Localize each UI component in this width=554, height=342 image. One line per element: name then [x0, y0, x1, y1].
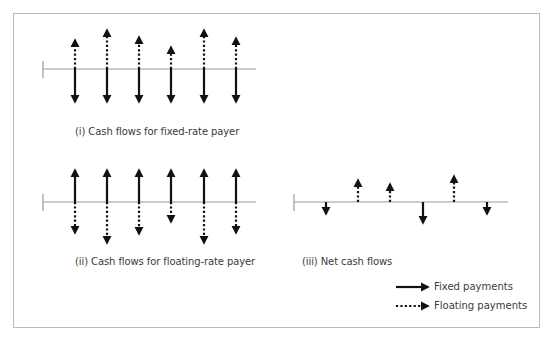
legend-fixed-label: Fixed payments [434, 281, 513, 292]
legend-floating-label: Floating payments [434, 300, 527, 311]
panel-net [294, 176, 508, 223]
caption-floating-rate-payer: (ii) Cash flows for floating-rate payer [75, 256, 255, 267]
panel-fixed [43, 30, 256, 102]
caption-net-cash-flows: (iii) Net cash flows [302, 256, 392, 267]
panel-floating [43, 170, 256, 243]
caption-fixed-rate-payer: (i) Cash flows for fixed-rate payer [75, 126, 239, 137]
